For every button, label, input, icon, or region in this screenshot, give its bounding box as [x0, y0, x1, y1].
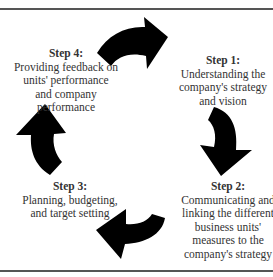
step-4: Step 4: Providing feedback on units' per… — [10, 47, 122, 115]
step-2-description: Communicating and linking the different … — [176, 194, 273, 262]
step-2: Step 2: Communicating and linking the di… — [176, 180, 273, 261]
step-3-description: Planning, budgeting, and target setting — [20, 194, 120, 221]
step-4-title: Step 4: — [10, 47, 122, 61]
step-3: Step 3: Planning, budgeting, and target … — [20, 180, 120, 221]
step-2-title: Step 2: — [176, 180, 273, 194]
step-1-title: Step 1: — [168, 54, 273, 68]
step-1-description: Understanding the company's strategy and… — [168, 68, 273, 109]
step-3-title: Step 3: — [20, 180, 120, 194]
step-4-description: Providing feedback on units' performance… — [10, 61, 122, 115]
arrow-left-icon — [16, 104, 66, 175]
step-1: Step 1: Understanding the company's stra… — [168, 54, 273, 108]
arrow-right-icon — [200, 107, 252, 176]
